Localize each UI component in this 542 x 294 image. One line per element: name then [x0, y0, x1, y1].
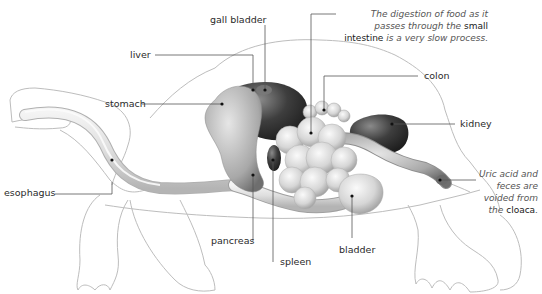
note-cloaca-term: cloaca: [506, 205, 535, 215]
label-kidney: kidney: [460, 119, 492, 129]
label-liver: liver: [130, 50, 151, 60]
front-leg-right: [130, 200, 215, 291]
leader-esophagus: [55, 182, 112, 194]
label-esophagus: esophagus: [4, 188, 55, 198]
note-intestine-post: is a very slow process.: [386, 33, 488, 43]
label-gall-bladder: gall bladder: [210, 15, 266, 25]
leader-liver: [155, 55, 253, 90]
note-cloaca: Uric acid and feces are voided from the …: [478, 168, 538, 216]
label-stomach: stomach: [105, 99, 146, 109]
stomach: [205, 86, 264, 192]
label-pancreas: pancreas: [211, 236, 254, 246]
note-cloaca-post: .: [535, 205, 538, 215]
front-leg-left: [77, 195, 128, 290]
esophagus: [25, 110, 235, 189]
spleen: [267, 145, 281, 171]
bladder: [339, 174, 383, 214]
hind-leg-far: [500, 215, 521, 290]
label-spleen: spleen: [280, 257, 311, 267]
label-colon: colon: [424, 71, 450, 81]
hind-leg-right: [408, 205, 498, 292]
note-small-intestine: The digestion of food as it passes throu…: [338, 8, 488, 44]
label-bladder: bladder: [339, 245, 375, 255]
tortoise-digestive-diagram: [0, 0, 542, 294]
